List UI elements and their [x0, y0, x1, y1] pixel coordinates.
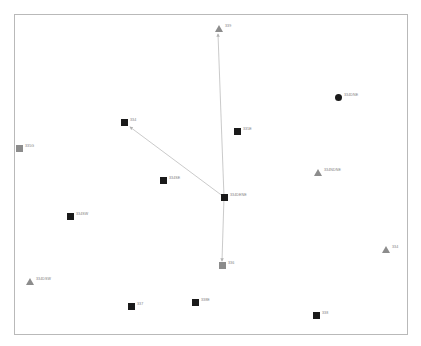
data-point-label: 334NDNE: [324, 168, 341, 172]
data-point-p5[interactable]: 335G: [16, 145, 34, 152]
data-point-label: 336: [228, 261, 234, 265]
data-point-label: 334: [130, 118, 136, 122]
square-marker-icon: [234, 128, 241, 135]
data-point-p6[interactable]: 334NDNE: [314, 169, 341, 176]
data-point-label: 339: [225, 24, 231, 28]
square-marker-icon: [219, 262, 226, 269]
data-point-p8[interactable]: 334DENE: [221, 194, 247, 201]
triangle-marker-icon: [215, 25, 223, 32]
data-point-p9[interactable]: 334SW: [67, 213, 88, 220]
data-point-label: 334SE: [169, 176, 180, 180]
data-point-label: 334: [392, 245, 398, 249]
data-point-p13[interactable]: 337: [128, 303, 143, 310]
triangle-marker-icon: [382, 246, 390, 253]
data-point-label: 334DNE: [344, 93, 358, 97]
data-point-p11[interactable]: 336: [219, 262, 234, 269]
square-marker-icon: [160, 177, 167, 184]
data-point-label: 334DENE: [230, 193, 247, 197]
data-point-label: 338: [322, 311, 328, 315]
diagram-canvas: 339334DNE334335E335G334NDNE334SE334DENE3…: [0, 0, 421, 346]
data-point-p12[interactable]: 334DSW: [26, 278, 51, 285]
square-marker-icon: [313, 312, 320, 319]
square-marker-icon: [221, 194, 228, 201]
data-point-label: 334SW: [76, 212, 88, 216]
data-point-p10[interactable]: 334: [382, 246, 398, 253]
data-point-label: 338E: [201, 298, 210, 302]
square-marker-icon: [16, 145, 23, 152]
square-marker-icon: [128, 303, 135, 310]
data-point-p4[interactable]: 335E: [234, 128, 252, 135]
square-marker-icon: [67, 213, 74, 220]
plot-frame: [14, 14, 408, 335]
triangle-marker-icon: [314, 169, 322, 176]
circle-marker-icon: [335, 94, 342, 101]
data-point-p2[interactable]: 334DNE: [335, 94, 358, 101]
data-point-p3[interactable]: 334: [121, 119, 136, 126]
square-marker-icon: [121, 119, 128, 126]
data-point-p15[interactable]: 338: [313, 312, 328, 319]
data-point-label: 337: [137, 302, 143, 306]
data-point-p14[interactable]: 338E: [192, 299, 210, 306]
data-point-label: 335E: [243, 127, 252, 131]
square-marker-icon: [192, 299, 199, 306]
data-point-label: 335G: [25, 144, 34, 148]
triangle-marker-icon: [26, 278, 34, 285]
data-point-p7[interactable]: 334SE: [160, 177, 180, 184]
data-point-p1[interactable]: 339: [215, 25, 231, 32]
data-point-label: 334DSW: [36, 277, 51, 281]
